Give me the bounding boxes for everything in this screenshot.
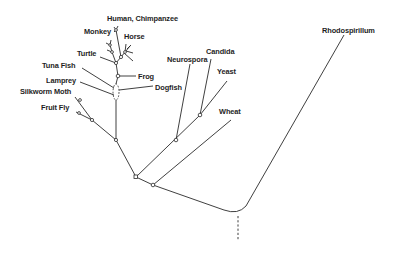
branch-fungi (136, 115, 200, 177)
node (111, 51, 114, 54)
node (79, 99, 82, 102)
branch-primates (116, 30, 121, 57)
node (114, 61, 117, 64)
label-monkey: Monkey (84, 28, 111, 35)
label-lamprey: Lamprey (46, 77, 76, 84)
uncertain-node-oval (113, 84, 119, 100)
label-horse: Horse (124, 33, 144, 40)
label-neurospora: Neurospora (167, 56, 207, 63)
node (109, 44, 112, 47)
node (114, 138, 117, 141)
label-dogfish: Dogfish (155, 84, 182, 91)
branch-lamprey (80, 82, 114, 95)
branch-wheat (153, 120, 231, 185)
twig (127, 45, 131, 49)
branch-neurospora (176, 64, 190, 140)
branch-candida (200, 59, 211, 115)
node (78, 112, 81, 115)
label-fruit-fly: Fruit Fly (41, 104, 69, 111)
label-human-chimpanzee: Human, Chimpanzee (107, 15, 178, 22)
label-rhodospirillum: Rhodospirillum (322, 27, 375, 34)
node (198, 113, 202, 117)
label-yeast: Yeast (217, 68, 236, 75)
label-turtle: Turtle (77, 50, 96, 57)
branch-dogfish (119, 86, 153, 90)
branch-silkworm (75, 97, 92, 120)
label-tuna-fish: Tuna Fish (42, 62, 75, 69)
twig (124, 53, 133, 61)
node (174, 138, 178, 142)
branch-turtle (100, 57, 116, 63)
label-wheat: Wheat (219, 108, 241, 115)
node (116, 74, 120, 78)
node (115, 29, 118, 32)
twig (126, 51, 133, 53)
label-frog: Frog (138, 73, 154, 80)
branch-insects (92, 120, 116, 140)
node (90, 118, 93, 121)
node (134, 175, 138, 179)
branch-animals (116, 140, 136, 177)
node (124, 51, 127, 54)
label-candida: Candida (206, 48, 234, 55)
node (151, 183, 155, 187)
node (119, 55, 122, 58)
phylogenetic-tree (0, 0, 400, 254)
label-silkworm-moth: Silkworm Moth (20, 88, 71, 95)
